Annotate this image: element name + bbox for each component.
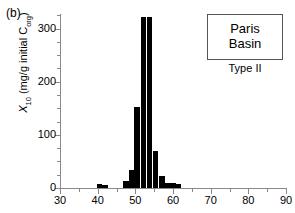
y-tick-label: 0 [28, 181, 56, 193]
y-axis-title-symbol: X [17, 106, 29, 113]
x-tick-label: 70 [196, 194, 226, 206]
y-axis-title-subscript: 10 [24, 97, 33, 105]
bar [176, 184, 182, 188]
bar [147, 17, 153, 188]
x-tick-minor [192, 189, 193, 192]
bar [134, 107, 140, 188]
x-tick-label: 90 [271, 194, 295, 206]
x-tick-label: 40 [83, 194, 113, 206]
y-axis-title: X10 (mg/g initial Corg) [17, 0, 32, 138]
y-axis-title-close: ) [17, 12, 29, 16]
figure-panel: (b) 30405060708090 0100200300 X10 (mg/g … [0, 0, 295, 213]
legend-sublabel: Type II [207, 62, 283, 74]
bar [102, 185, 108, 188]
x-tick-minor [267, 189, 268, 192]
bar [153, 151, 159, 188]
x-tick-label: 80 [233, 194, 263, 206]
legend-box: Paris Basin [207, 14, 283, 60]
y-axis-title-subscript-org: org [24, 16, 33, 27]
legend-line-2: Basin [229, 37, 262, 52]
x-tick-minor [230, 189, 231, 192]
x-tick-minor [79, 189, 80, 192]
y-axis-title-units: (mg/g initial C [17, 27, 29, 97]
x-tick-minor [154, 189, 155, 192]
x-tick-label: 60 [158, 194, 188, 206]
x-tick-minor [117, 189, 118, 192]
x-tick-label: 50 [120, 194, 150, 206]
legend-line-1: Paris [230, 22, 260, 37]
bar [141, 17, 147, 188]
